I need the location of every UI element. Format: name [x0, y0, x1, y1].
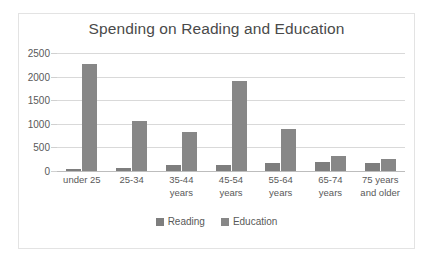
- x-axis-label-line: 45-54: [206, 174, 256, 187]
- bar-education[interactable]: [132, 121, 147, 171]
- bar-reading[interactable]: [315, 162, 330, 171]
- x-axis-category-label: 75 yearsand older: [355, 174, 405, 199]
- x-axis-label-line: under 25: [57, 174, 107, 187]
- bar-reading[interactable]: [166, 165, 181, 171]
- plot-area: 05001000150020002500: [57, 53, 405, 171]
- x-axis-category-label: 65-74years: [306, 174, 356, 199]
- x-axis-label-line: 55-64: [256, 174, 306, 187]
- y-axis-tick-label: 0: [44, 166, 50, 177]
- x-axis-label-line: years: [256, 187, 306, 200]
- bar-group: [256, 53, 306, 171]
- bar-reading[interactable]: [365, 163, 380, 171]
- legend-swatch-icon: [221, 218, 229, 226]
- x-axis-label-line: 25-34: [107, 174, 157, 187]
- bar-education[interactable]: [381, 159, 396, 171]
- x-axis-label-line: 65-74: [306, 174, 356, 187]
- bar-series-group: [57, 53, 405, 171]
- x-axis-category-label: 45-54years: [206, 174, 256, 199]
- bar-reading[interactable]: [66, 169, 81, 171]
- bar-education[interactable]: [232, 81, 247, 171]
- legend-swatch-icon: [156, 218, 164, 226]
- bar-reading[interactable]: [216, 165, 231, 171]
- y-axis-tick-label: 500: [33, 142, 50, 153]
- chart-title: Spending on Reading and Education: [19, 20, 414, 38]
- bar-education[interactable]: [281, 129, 296, 171]
- x-axis-label-line: 75 years: [355, 174, 405, 187]
- x-axis-labels: under 2525-3435-44years45-54years55-64ye…: [57, 174, 405, 199]
- bar-group: [355, 53, 405, 171]
- bar-education[interactable]: [82, 64, 97, 171]
- x-axis-category-label: 35-44years: [156, 174, 206, 199]
- x-axis-category-label: under 25: [57, 174, 107, 199]
- bar-reading[interactable]: [265, 163, 280, 171]
- legend-label: Education: [233, 216, 277, 227]
- legend-label: Reading: [168, 216, 205, 227]
- y-axis-tick-mark: [51, 171, 57, 172]
- legend-item-reading[interactable]: Reading: [156, 216, 205, 227]
- bar-education[interactable]: [182, 132, 197, 171]
- x-axis-label-line: and older: [355, 187, 405, 200]
- bar-group: [306, 53, 356, 171]
- y-axis-tick-label: 2500: [28, 48, 50, 59]
- x-axis-label-line: years: [156, 187, 206, 200]
- bar-group: [107, 53, 157, 171]
- bar-group: [57, 53, 107, 171]
- x-axis-label-line: years: [206, 187, 256, 200]
- y-axis-tick-label: 1500: [28, 95, 50, 106]
- chart-legend: ReadingEducation: [19, 216, 414, 227]
- gridline: [57, 171, 405, 172]
- chart-container: Spending on Reading and Education 050010…: [18, 13, 415, 249]
- x-axis-category-label: 55-64years: [256, 174, 306, 199]
- bar-reading[interactable]: [116, 168, 131, 171]
- y-axis-tick-label: 2000: [28, 71, 50, 82]
- bar-group: [156, 53, 206, 171]
- x-axis-category-label: 25-34: [107, 174, 157, 199]
- bar-group: [206, 53, 256, 171]
- legend-item-education[interactable]: Education: [221, 216, 277, 227]
- x-axis-label-line: years: [306, 187, 356, 200]
- bar-education[interactable]: [331, 156, 346, 171]
- x-axis-label-line: 35-44: [156, 174, 206, 187]
- y-axis-tick-label: 1000: [28, 118, 50, 129]
